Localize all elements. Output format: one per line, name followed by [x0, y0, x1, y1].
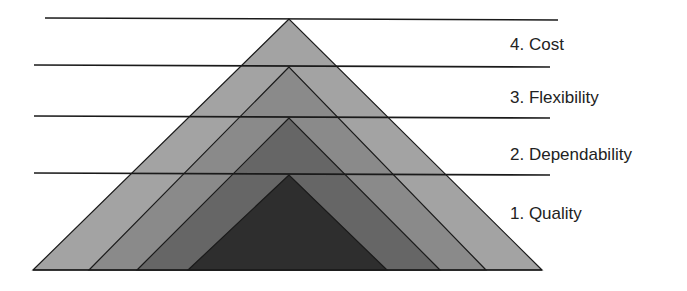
divider-line-4 — [34, 173, 550, 175]
divider-line-1 — [45, 18, 558, 20]
divider-line-3 — [34, 116, 550, 118]
layer-label-cost: 4. Cost — [510, 36, 564, 53]
divider-line-2 — [34, 65, 550, 67]
layer-label-dependability: 2. Dependability — [510, 146, 632, 163]
layer-label-flexibility: 3. Flexibility — [510, 89, 599, 106]
layer-label-quality: 1. Quality — [510, 205, 582, 222]
